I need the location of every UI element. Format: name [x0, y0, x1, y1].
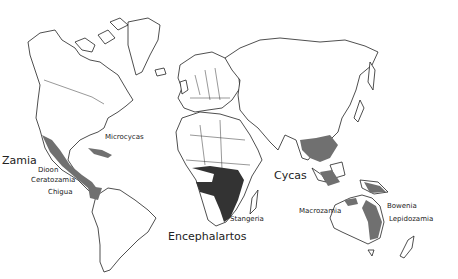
label-ceratozamia: Ceratozamia [31, 177, 75, 184]
range-cuba-caribbean [88, 148, 112, 158]
label-stangeria: Stangeria [230, 216, 264, 223]
label-bowenia: Bowenia [387, 203, 417, 210]
label-zamia: Zamia [2, 155, 37, 166]
label-cycas: Cycas [274, 170, 307, 181]
iceland [155, 68, 166, 76]
japan [354, 100, 364, 122]
greenland [128, 18, 160, 75]
label-chigua: Chigua [48, 189, 72, 196]
label-macrozamia: Macrozamia [299, 208, 341, 215]
tasmania [368, 250, 374, 256]
madagascar [250, 190, 258, 214]
arctic-islands [75, 18, 128, 52]
south-america [92, 188, 156, 272]
label-encephalartos: Encephalartos [168, 231, 247, 242]
label-lepidozamia: Lepidozamia [389, 216, 433, 223]
label-microcycas: Microcycas [105, 134, 144, 141]
new-zealand [400, 236, 414, 258]
label-dioon: Dioon [38, 167, 58, 174]
